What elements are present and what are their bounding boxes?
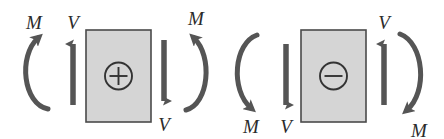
panel-negative: M V M V <box>237 12 428 139</box>
moment-arc-left-negative <box>237 35 257 108</box>
moment-arc-right-positive <box>186 38 206 110</box>
label-moment-right-negative: M <box>410 120 428 139</box>
label-shear-left-negative: V <box>280 116 294 137</box>
figure-canvas: M V M V <box>0 0 444 139</box>
label-moment-right-positive: M <box>187 8 205 29</box>
label-moment-left-negative: M <box>242 116 260 137</box>
label-shear-right-negative: V <box>378 12 392 33</box>
panel-positive: M V M V <box>25 8 206 135</box>
moment-arc-right-negative <box>400 34 421 110</box>
shear-moment-sign-convention-figure: M V M V <box>0 0 444 139</box>
label-moment-left-positive: M <box>25 12 43 33</box>
label-shear-left-positive: V <box>67 12 81 33</box>
label-shear-right-positive: V <box>158 114 172 135</box>
moment-arc-left-positive <box>26 38 48 109</box>
